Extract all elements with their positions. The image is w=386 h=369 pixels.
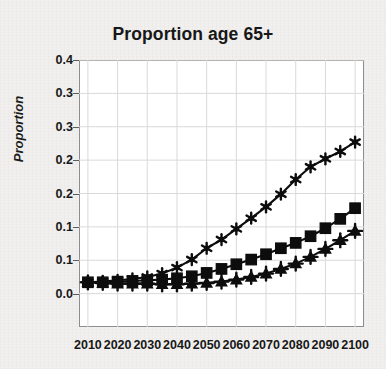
y-tick-mark (73, 294, 79, 295)
y-tick-mark (73, 227, 79, 228)
chart-title: Proportion age 65+ (0, 24, 386, 45)
y-tick-mark (73, 260, 79, 261)
y-tick-label: 0.2 (33, 187, 73, 201)
y-tick-mark (73, 60, 79, 61)
x-tick-label: 2100 (332, 338, 378, 352)
y-tick-label: 0.1 (33, 220, 73, 234)
y-tick-mark (73, 194, 79, 195)
y-tick-label: 0.3 (33, 86, 73, 100)
y-axis-label: Proportion (11, 84, 26, 174)
y-tick-label: 0.2 (33, 153, 73, 167)
chart-plot-svg (79, 60, 364, 327)
y-tick-mark (73, 93, 79, 94)
y-tick-label: 0.1 (33, 253, 73, 267)
y-tick-label: 0.0 (33, 287, 73, 301)
y-tick-mark (73, 160, 79, 161)
y-tick-mark (73, 127, 79, 128)
figure-canvas: Proportion age 65+ Proportion 0.40.30.30… (0, 0, 386, 369)
y-tick-label: 0.4 (33, 53, 73, 67)
y-tick-label: 0.3 (33, 120, 73, 134)
